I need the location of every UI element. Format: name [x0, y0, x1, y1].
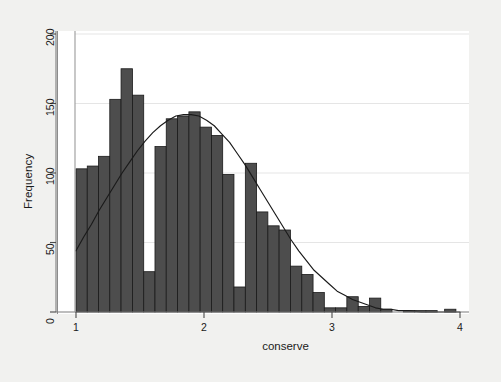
x-tick-label: 3 — [312, 321, 352, 333]
x-tick-label: 4 — [440, 321, 480, 333]
histogram-figure: 050100150200 1234 Frequency conserve — [0, 0, 501, 382]
x-tick-marks — [76, 312, 460, 318]
y-tick-label: 100 — [44, 167, 56, 185]
y-tick-label: 150 — [44, 98, 56, 116]
x-tick-label: 1 — [56, 321, 96, 333]
y-tick-label: 50 — [44, 243, 56, 255]
histogram-bars — [76, 69, 456, 312]
y-axis-title: Frequency — [22, 154, 34, 209]
y-tick-label: 200 — [44, 28, 56, 46]
x-axis-title: conserve — [0, 340, 501, 352]
x-tick-label: 2 — [184, 321, 224, 333]
y-tick-label: 0 — [44, 318, 56, 324]
